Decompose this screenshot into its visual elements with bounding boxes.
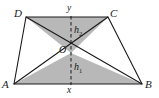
- bottom-base-label: x: [67, 86, 71, 96]
- upper-height-subscript: 2: [79, 30, 82, 37]
- figure-canvas: [0, 0, 159, 98]
- vertex-label-a: A: [2, 79, 9, 90]
- upper-height-label: h2: [74, 25, 82, 38]
- vertex-label-c: C: [110, 8, 117, 19]
- geometry-figure: D C A B O y x h2 h1: [0, 0, 159, 98]
- vertex-label-o: O: [59, 45, 66, 55]
- lower-height-label: h1: [74, 62, 82, 75]
- lower-height-subscript: 1: [79, 67, 82, 74]
- vertex-label-b: B: [145, 79, 152, 90]
- top-base-label: y: [67, 4, 71, 14]
- shaded-triangle-doc: [26, 17, 108, 53]
- vertex-label-d: D: [14, 8, 22, 19]
